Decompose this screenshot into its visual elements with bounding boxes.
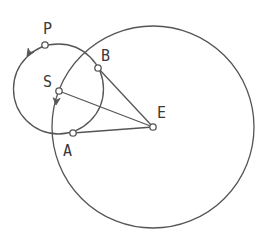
- segment-a-e: [73, 127, 153, 133]
- segment-s-e: [59, 91, 153, 127]
- segment-b-e: [98, 68, 153, 127]
- label-b: B: [101, 47, 110, 65]
- point-b: [95, 65, 101, 71]
- point-p: [42, 42, 48, 48]
- label-s: S: [43, 73, 52, 91]
- orbit-diagram: PBSAE: [0, 0, 262, 236]
- point-a: [70, 130, 76, 136]
- label-a: A: [63, 142, 72, 160]
- point-e: [150, 124, 156, 130]
- label-e: E: [157, 104, 166, 122]
- arrow-small-orbit-icon: [24, 48, 34, 58]
- circles-layer: [14, 26, 255, 228]
- diagram-canvas: PBSAE: [0, 0, 262, 236]
- segments-layer: [59, 68, 153, 133]
- label-p: P: [43, 20, 52, 38]
- point-s: [56, 88, 62, 94]
